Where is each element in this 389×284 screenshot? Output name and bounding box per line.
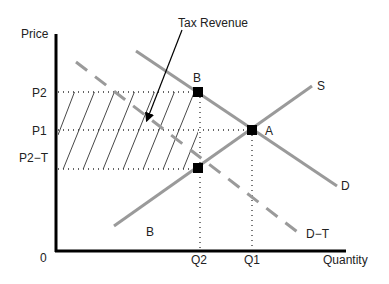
demand-minus-tax-curve bbox=[76, 62, 300, 234]
origin-label: 0 bbox=[40, 251, 47, 265]
region-b-label: B bbox=[146, 225, 154, 239]
y-axis-label: Price bbox=[21, 27, 49, 41]
price-tick-p2: P2 bbox=[32, 86, 47, 100]
supply-curve bbox=[114, 86, 312, 226]
point-b-label: B bbox=[193, 71, 201, 85]
hatched-tax-revenue-area bbox=[58, 88, 216, 172]
taxed-supply-point-marker bbox=[193, 163, 203, 173]
tax-revenue-diagram: Price Quantity 0 P2 P1 P2−T Q2 Q1 S D D−… bbox=[0, 0, 389, 284]
tax-revenue-arrow bbox=[147, 30, 182, 120]
supply-label: S bbox=[317, 79, 325, 93]
point-a-label: A bbox=[265, 124, 273, 138]
point-b-marker bbox=[193, 87, 203, 97]
point-a-marker bbox=[247, 125, 257, 135]
price-tick-p2-minus-t: P2−T bbox=[19, 151, 49, 165]
quantity-tick-q1: Q1 bbox=[244, 253, 260, 267]
demand-minus-tax-label: D−T bbox=[306, 227, 330, 241]
quantity-tick-q2: Q2 bbox=[191, 253, 207, 267]
tax-revenue-annotation: Tax Revenue bbox=[178, 16, 248, 30]
price-tick-p1: P1 bbox=[32, 124, 47, 138]
demand-label: D bbox=[341, 179, 350, 193]
x-axis-label: Quantity bbox=[323, 253, 368, 267]
